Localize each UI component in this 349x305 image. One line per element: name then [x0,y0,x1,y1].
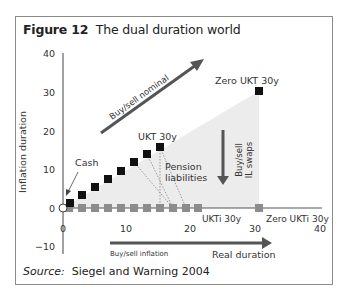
zero-ukt30-label: Zero UKT 30y [215,75,279,86]
buy-sell-il-label-1: Buy/sell [234,143,244,177]
svg-text:−10: −10 [35,241,55,252]
source-note: Source: Siegel and Warning 2004 [23,265,210,278]
svg-text:20: 20 [43,126,55,137]
source-label: Source: [23,265,65,278]
cash-label: Cash [75,157,98,168]
svg-text:40: 40 [314,223,326,234]
svg-text:0: 0 [60,223,66,234]
svg-text:40: 40 [43,48,55,59]
chart: 40 30 20 10 0 −10 0 10 20 30 40 Inflatio… [0,0,349,305]
y-axis-label: Inflation duration [17,111,28,193]
svg-text:0: 0 [49,203,55,214]
buy-sell-il-label-2: IL swaps [244,141,254,178]
x-axis-label: Real duration [212,249,275,260]
ukt30-label: UKT 30y [138,131,177,142]
svg-text:20: 20 [184,223,196,234]
zero-ukti30-label: Zero UKTi 30y [266,214,329,224]
svg-text:30: 30 [249,223,261,234]
pension-label-2: liabilities [165,172,207,183]
cash-pointer-head [66,189,71,196]
svg-text:30: 30 [43,87,55,98]
pension-label-1: Pension [165,161,202,172]
x-tick-labels: 0 10 20 30 40 [60,223,326,234]
cash-pointer [68,172,78,192]
buy-sell-nominal-label: Buy/sell nominal [107,73,170,122]
svg-text:10: 10 [120,223,132,234]
svg-text:10: 10 [43,164,55,175]
cash-marker [59,204,67,212]
buy-sell-nominal-arrow [101,59,204,133]
buy-sell-inflation-label: Buy/sell inflation [110,250,168,258]
y-tick-labels: 40 30 20 10 0 −10 [35,48,55,252]
source-text: Siegel and Warning 2004 [72,265,210,278]
buy-sell-inflation-arrow [110,237,272,249]
ukti30-label: UKTi 30y [202,214,242,224]
